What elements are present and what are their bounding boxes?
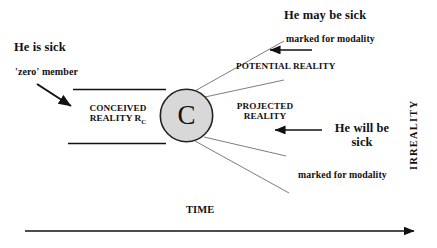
reality-projection-diagram: He is sick 'zero' member CONCEIVED REALI… [0, 0, 437, 248]
conception-point-circle [160, 89, 212, 141]
fan-line-upper-inner [205, 80, 284, 97]
label-conceived-reality: CONCEIVED REALITY RC [75, 103, 161, 126]
he-will-be-sick-line-1: He will be [335, 121, 389, 135]
label-irreality-axis: IRREALITY [408, 100, 419, 170]
label-marked-for-modality-top: marked for modality [286, 34, 375, 45]
he-will-be-sick-line-2: sick [351, 135, 372, 149]
projected-reality-line-2: REALITY [244, 111, 287, 121]
conceived-reality-line-2: REALITY R [90, 113, 141, 123]
label-time-axis: TIME [186, 204, 214, 216]
conceived-reality-line-1: CONCEIVED [89, 103, 146, 113]
label-marked-for-modality-bottom: marked for modality [298, 170, 387, 181]
zero-member-arrow [37, 84, 71, 106]
fan-line-lower-outer [195, 141, 289, 193]
conceived-reality-subscript: C [141, 118, 146, 125]
label-zero-member: 'zero' member [15, 66, 78, 77]
label-he-may-be-sick: He may be sick [284, 8, 366, 22]
label-potential-reality: POTENTIAL REALITY [236, 61, 335, 71]
label-he-is-sick: He is sick [14, 40, 66, 54]
projected-reality-line-1: PROJECTED [237, 101, 294, 111]
label-he-will-be-sick: He will be sick [326, 121, 398, 149]
label-projected-reality: PROJECTED REALITY [222, 101, 308, 122]
